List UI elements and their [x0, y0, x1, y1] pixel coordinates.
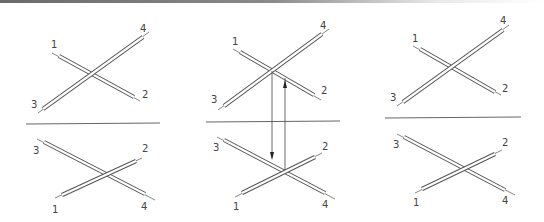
label-3: 3: [211, 94, 217, 105]
right-bottom-pair: 3 2 1 4: [393, 134, 515, 208]
left-top-pair: 1 4 3 2: [31, 23, 149, 113]
rod-1-2: [235, 153, 322, 197]
rod-3-4: [397, 134, 515, 195]
label-2: 2: [502, 137, 508, 148]
rod-1-2: [55, 158, 142, 198]
rod-3-4: [217, 137, 335, 199]
rod-3-4: [37, 139, 155, 200]
middle-bottom-pair: 3 2 1 4: [213, 137, 335, 212]
label-1: 1: [52, 204, 58, 215]
panel-middle: 1 4 3 2 3 2 1 4: [206, 20, 340, 212]
middle-top-pair: 1 4 3 2: [211, 20, 329, 110]
label-2: 2: [142, 143, 148, 154]
label-4: 4: [141, 201, 147, 212]
label-4: 4: [322, 199, 328, 210]
label-2: 2: [502, 83, 508, 94]
rod-1-2: [415, 150, 502, 193]
left-bottom-pair: 3 2 1 4: [33, 139, 155, 215]
projection-arrows: [270, 71, 287, 170]
label-4: 4: [502, 195, 508, 206]
label-1: 1: [413, 197, 419, 208]
label-4: 4: [320, 20, 326, 31]
label-1: 1: [51, 39, 57, 50]
label-2: 2: [321, 85, 327, 96]
label-2: 2: [142, 89, 148, 100]
label-3: 3: [393, 139, 399, 150]
separator-left: [26, 123, 160, 124]
rod-1-2: [233, 49, 321, 100]
label-3: 3: [390, 92, 396, 103]
label-4: 4: [140, 23, 146, 34]
right-top-pair: 1 4 3 2: [390, 15, 509, 106]
label-1: 1: [233, 201, 239, 212]
separator-right: [385, 117, 521, 118]
label-4: 4: [500, 15, 506, 26]
crossing-rods-diagram: 1 4 3 2 3 2 1 4: [0, 0, 544, 222]
label-1: 1: [232, 36, 238, 47]
label-1: 1: [412, 33, 418, 44]
label-2: 2: [322, 141, 328, 152]
panel-right: 1 4 3 2 3 2 1 4: [385, 15, 521, 208]
label-3: 3: [31, 99, 37, 110]
panel-left: 1 4 3 2 3 2 1 4: [26, 23, 160, 215]
arrow-down-head-icon: [270, 152, 274, 160]
label-3: 3: [213, 142, 219, 153]
separator-middle: [206, 121, 340, 122]
label-3: 3: [33, 145, 39, 156]
